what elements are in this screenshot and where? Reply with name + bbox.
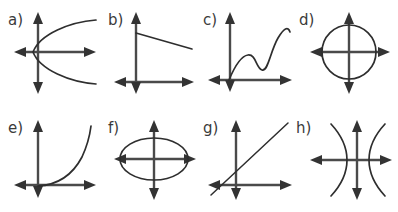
panel-b: b) <box>108 11 194 94</box>
panel-f: f) <box>108 119 196 200</box>
panel-b-label: b) <box>108 11 123 29</box>
panel-d-y-axis-arrow-down <box>344 82 354 94</box>
panel-b-y-axis-arrow-up <box>131 12 141 24</box>
panel-g: g) <box>203 119 292 200</box>
panel-h: h) <box>296 119 392 200</box>
panel-d: d) <box>299 11 390 94</box>
panel-e-x-axis-arrow-left <box>14 180 26 190</box>
panel-c-x-axis-arrow-right <box>280 75 292 85</box>
panel-e-y-axis-arrow-down <box>33 186 43 198</box>
panel-f-y-axis-arrow-down <box>149 188 159 200</box>
graph-figure: a) b) c) <box>0 0 398 212</box>
panel-d-y-axis-arrow-up <box>344 12 354 24</box>
panel-c-label: c) <box>203 11 217 29</box>
panel-f-y-axis-arrow-up <box>149 120 159 132</box>
panel-b-y-axis-arrow-down <box>131 82 141 94</box>
panel-h-x-axis-arrow-right <box>380 155 392 165</box>
panel-h-y-axis-arrow-down <box>352 188 362 200</box>
panel-c-curve-wavy <box>229 29 290 80</box>
panel-h-x-axis-arrow-left <box>310 155 322 165</box>
panel-c: c) <box>203 11 292 92</box>
panel-b-curve-line <box>136 33 192 49</box>
panel-d-x-axis-arrow-left <box>310 47 322 57</box>
panel-c-x-axis-arrow-left <box>208 75 220 85</box>
panel-e-label: e) <box>8 119 23 137</box>
panel-a-y-axis-arrow-up <box>33 12 43 24</box>
panel-d-x-axis-arrow-right <box>378 47 390 57</box>
panel-c-y-axis-arrow-up <box>225 12 235 24</box>
panel-g-y-axis-arrow-down <box>231 188 241 200</box>
panel-e: e) <box>8 119 96 198</box>
panel-b-x-axis-arrow-right <box>182 77 194 87</box>
panel-d-label: d) <box>299 11 314 29</box>
panel-a-x-axis-arrow-left <box>14 47 26 57</box>
panel-f-label: f) <box>108 119 119 137</box>
panel-f-x-axis-arrow-right <box>184 154 196 164</box>
panel-a-y-axis-arrow-down <box>33 82 43 94</box>
panel-a-x-axis-arrow-right <box>84 47 96 57</box>
panel-g-label: g) <box>203 119 218 137</box>
graphs-canvas: a) b) c) <box>0 0 398 212</box>
panel-c-y-axis-arrow-down <box>225 80 235 92</box>
panel-g-x-axis-arrow-right <box>280 180 292 190</box>
panel-a: a) <box>8 11 96 94</box>
panel-b-x-axis-arrow-left <box>114 77 126 87</box>
panel-h-y-axis-arrow-up <box>352 120 362 132</box>
panel-e-x-axis-arrow-right <box>84 180 96 190</box>
panel-a-label: a) <box>8 11 23 29</box>
panel-e-curve-exponential <box>38 126 91 186</box>
panel-h-label: h) <box>296 119 311 137</box>
panel-e-y-axis-arrow-up <box>33 120 43 132</box>
panel-g-y-axis-arrow-up <box>231 120 241 132</box>
